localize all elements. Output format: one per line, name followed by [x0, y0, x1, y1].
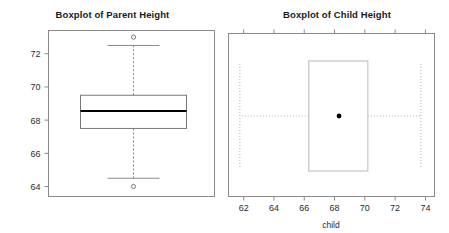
- x-tick-label: 74: [420, 203, 430, 213]
- x-axis-title-child: child: [322, 220, 340, 230]
- median-point: [337, 114, 342, 119]
- y-tick-label: 64: [30, 182, 40, 192]
- y-tick-label: 70: [30, 82, 40, 92]
- x-tick-label: 64: [269, 203, 279, 213]
- boxplot-figure: Boxplot of Parent Height 6466687072 Boxp…: [0, 0, 449, 233]
- y-tick-label: 72: [30, 49, 40, 59]
- child-height-plot-area: 62646668707274 child: [225, 0, 449, 233]
- y-tick-label: 68: [30, 116, 40, 126]
- x-tick-label: 68: [330, 203, 340, 213]
- x-axis-ticks-bottom-right: 62646668707274: [239, 197, 431, 213]
- panel-parent-height: Boxplot of Parent Height 6466687072: [0, 0, 225, 233]
- panel-child-height: Boxplot of Child Height 62646668707274 c…: [225, 0, 449, 233]
- x-tick-label: 72: [390, 203, 400, 213]
- parent-height-plot-area: 6466687072: [0, 0, 225, 233]
- x-tick-label: 66: [299, 203, 309, 213]
- y-axis-ticks-left: 6466687072: [30, 49, 48, 192]
- y-tick-label: 66: [30, 149, 40, 159]
- x-tick-label: 62: [239, 203, 249, 213]
- x-tick-label: 70: [360, 203, 370, 213]
- x-axis-ticks-top-right: [244, 30, 426, 34]
